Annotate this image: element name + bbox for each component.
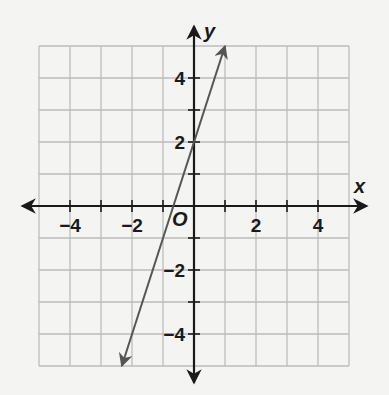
coordinate-plane: −4−22442−2−4 x y O [0,0,389,395]
y-tick-label: 4 [174,68,185,89]
x-tick-label: 4 [313,215,324,236]
origin-label: O [172,208,188,230]
x-tick-label: −2 [121,215,143,236]
y-tick-label: 2 [174,132,185,153]
y-tick-label: −4 [163,324,185,345]
x-axis-label: x [353,175,366,197]
x-tick-label: −4 [59,215,81,236]
y-tick-label: −2 [163,260,185,281]
x-tick-label: 2 [251,215,262,236]
y-axis-label: y [203,20,216,42]
